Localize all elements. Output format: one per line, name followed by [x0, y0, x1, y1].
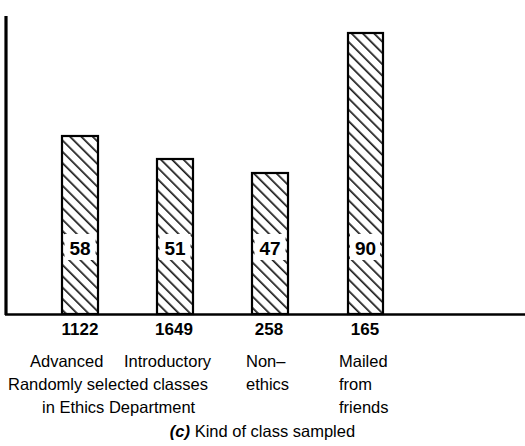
desc-randomly-selected-classes: Randomly selected classes	[8, 373, 208, 395]
bar-group-introductory: 51	[157, 159, 193, 314]
bar-value-non-ethics: 47	[259, 238, 280, 259]
tick-label-mailed: 165	[320, 318, 410, 342]
bar-chart-figure: 58 51 47 90 1122 1649	[0, 0, 525, 446]
category-description-block: Advanced Introductory Non– Mailed Random…	[0, 350, 525, 418]
desc-mailed: Mailed	[339, 350, 388, 372]
figure-caption: (c) Kind of class sampled	[0, 420, 525, 444]
bar-group-mailed: 90	[348, 33, 383, 314]
desc-in-ethics-department: in Ethics Department	[42, 396, 195, 418]
desc-advanced: Advanced	[30, 350, 103, 372]
desc-friends: friends	[339, 396, 389, 418]
x-axis-tick-labels: 1122 1649 258 165	[0, 318, 525, 344]
plot-area: 58 51 47 90	[0, 0, 525, 320]
figure-caption-text: Kind of class sampled	[195, 422, 356, 440]
tick-label-advanced: 1122	[35, 318, 125, 342]
bar-mailed	[348, 33, 383, 314]
bar-advanced	[62, 136, 98, 314]
desc-non-dash: Non–	[246, 350, 285, 372]
chart-canvas: 58 51 47 90	[0, 0, 525, 320]
tick-label-introductory: 1649	[129, 318, 219, 342]
desc-ethics: ethics	[246, 373, 289, 395]
bar-group-advanced: 58	[62, 136, 98, 314]
bar-value-advanced: 58	[69, 238, 90, 259]
figure-caption-id: (c)	[170, 422, 190, 440]
desc-row-2: Randomly selected classes ethics from	[0, 373, 525, 395]
desc-introductory: Introductory	[124, 350, 211, 372]
bar-value-introductory: 51	[164, 238, 186, 259]
desc-row-1: Advanced Introductory Non– Mailed	[0, 350, 525, 372]
desc-from: from	[339, 373, 372, 395]
tick-label-non-ethics: 258	[224, 318, 314, 342]
desc-row-3: in Ethics Department friends	[0, 396, 525, 418]
bar-value-mailed: 90	[355, 238, 376, 259]
bar-group-non-ethics: 47	[252, 173, 288, 314]
